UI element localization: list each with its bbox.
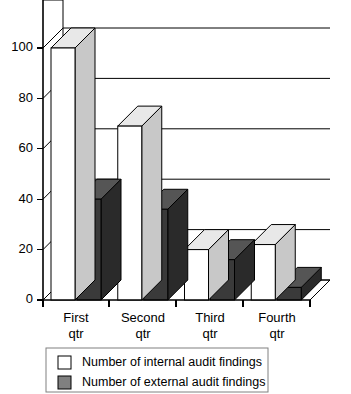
bar-first-external-side — [101, 179, 121, 300]
y-tick-label-40: 40 — [19, 191, 33, 206]
bar-first-internal-front — [51, 48, 75, 300]
bar-second-internal — [118, 106, 162, 300]
chart-canvas: 100 80 60 40 20 0 First qtr Second qtr T… — [0, 0, 351, 394]
x-label-third-line1: Third — [195, 310, 225, 325]
y-tick-label-0: 0 — [26, 291, 33, 306]
legend-swatch-internal — [58, 356, 71, 369]
x-label-first-line2: qtr — [68, 326, 84, 341]
x-label-first-line1: First — [63, 310, 89, 325]
x-label-second-line2: qtr — [135, 326, 151, 341]
bar-first-internal-side — [75, 28, 95, 300]
y-tick-label-100: 100 — [11, 39, 33, 54]
x-label-second-line1: Second — [121, 310, 165, 325]
x-axis-labels: First qtr Second qtr Third qtr Fourth qt… — [63, 310, 295, 341]
bar-second-internal-side — [142, 106, 162, 300]
x-axis — [43, 300, 310, 307]
bar-first-internal — [51, 28, 95, 300]
y-axis: 100 80 60 40 20 0 — [11, 0, 43, 306]
x-label-fourth-line2: qtr — [269, 326, 285, 341]
legend-swatch-external — [58, 376, 71, 389]
y-tick-label-20: 20 — [19, 241, 33, 256]
y-tick-label-60: 60 — [19, 140, 33, 155]
legend-label-internal: Number of internal audit findings — [82, 355, 262, 369]
y-tick-label-80: 80 — [19, 90, 33, 105]
bar-chart: 100 80 60 40 20 0 First qtr Second qtr T… — [0, 0, 351, 394]
legend: Number of internal audit findings Number… — [46, 348, 268, 392]
x-label-third-line2: qtr — [202, 326, 218, 341]
x-label-fourth-line1: Fourth — [258, 310, 296, 325]
legend-label-external: Number of external audit findings — [82, 375, 265, 389]
